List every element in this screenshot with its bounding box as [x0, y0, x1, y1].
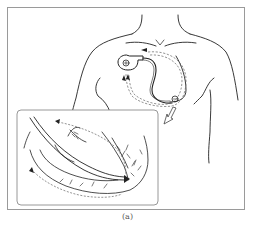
- torso-right: [190, 34, 238, 100]
- clavicle-left: [126, 42, 156, 46]
- pacemaker-figure: (a): [0, 0, 255, 225]
- heart-inset-frame: [17, 110, 158, 205]
- pacemaker-device: [118, 55, 143, 70]
- zoom-arrow: [164, 107, 176, 124]
- neck-right: [178, 15, 190, 34]
- lead-wire: [143, 58, 172, 103]
- sternal-notch: [156, 40, 164, 45]
- clavicle-right: [165, 42, 196, 46]
- neck-left: [132, 15, 142, 34]
- figure-caption: (a): [0, 211, 255, 223]
- right-arm-line: [209, 90, 211, 163]
- arrow-device-left: [122, 75, 126, 81]
- arm-left: [96, 78, 110, 112]
- arrow-device-top: [141, 48, 147, 52]
- torso-left: [70, 34, 132, 118]
- diagram-illustration: [0, 0, 255, 225]
